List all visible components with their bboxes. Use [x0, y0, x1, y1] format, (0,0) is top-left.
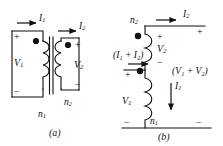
plus-top-panel-b: +: [197, 27, 203, 37]
minus-bottom-right-panel-b: −: [196, 118, 202, 128]
secondary-coil: [55, 41, 61, 89]
minus-bottom-left-panel-b: −: [124, 118, 130, 128]
minus-upper-coil-panel-b: −: [157, 58, 163, 68]
label-n2-panel-b: n2: [130, 16, 138, 26]
plus-primary-panel-a: +: [14, 32, 20, 42]
label-n1-panel-a: n1: [38, 110, 46, 120]
label-V1-panel-b: V1: [122, 96, 132, 107]
plus-mid-panel-b: +: [125, 70, 131, 80]
caption-panel-a: (a): [49, 128, 61, 138]
label-I1-panel-b: I1: [175, 82, 181, 92]
label-V2-panel-a: V2: [74, 60, 84, 71]
label-n1-panel-b: n1: [150, 117, 158, 127]
caption-panel-b: (b): [158, 132, 170, 142]
dot-upper: [135, 33, 141, 39]
primary-coil: [43, 41, 49, 89]
label-V1-plus-V2-panel-b: (V₁ + V₂): [172, 67, 208, 77]
label-I2-panel-b: I2: [183, 10, 189, 20]
figure-container: I1 + V1 − n1 I2 + V2 − n2 (a) n2 I2 + + …: [0, 0, 223, 146]
minus-secondary-panel-a: −: [75, 80, 81, 90]
label-I1-plus-I2-panel-b: (I₁ + I₂): [113, 51, 143, 61]
panel-a-arrows: [17, 23, 76, 31]
panel-b-arrows: [128, 20, 176, 110]
minus-primary-panel-a: −: [14, 87, 20, 97]
label-V1-panel-a: V1: [14, 58, 24, 69]
label-n2-panel-a: n2: [64, 98, 72, 108]
plus-secondary-panel-a: +: [75, 40, 81, 50]
plus-upper-coil-panel-b: +: [157, 32, 163, 42]
label-V2-panel-b: V2: [157, 44, 167, 55]
dot-secondary: [65, 42, 71, 48]
label-I1-panel-a: I1: [39, 14, 45, 24]
panel-b-wires: [122, 26, 211, 128]
label-I2-panel-a: I2: [79, 22, 85, 32]
dot-primary: [33, 38, 39, 44]
dot-lower: [137, 68, 143, 74]
